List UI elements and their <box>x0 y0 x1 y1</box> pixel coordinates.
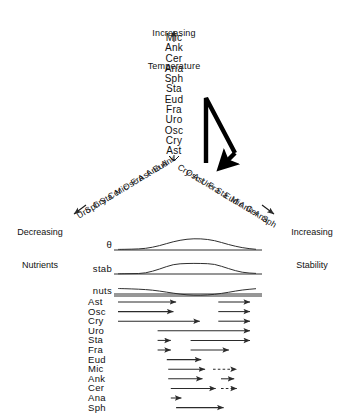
theta-curve <box>118 239 256 250</box>
species-arrows <box>114 294 262 408</box>
right-branch-arrow <box>262 205 274 214</box>
succession-loop-arrow <box>206 98 235 166</box>
figure-linework <box>0 0 347 418</box>
figure-root: Increasing Temperature MicAnkCerAnaSphSt… <box>0 0 347 418</box>
branch-apex-junction <box>169 155 179 161</box>
left-branch-arrow <box>74 205 86 214</box>
environment-curves <box>114 239 262 296</box>
stability-curve <box>118 263 256 273</box>
